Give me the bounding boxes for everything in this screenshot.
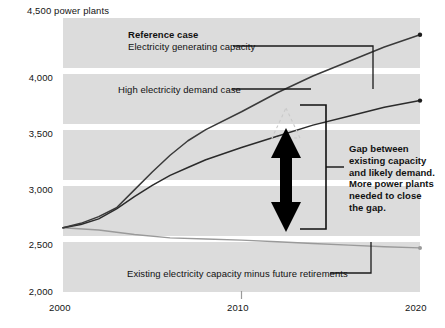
x-tick-label-2000: 2000 xyxy=(49,302,71,313)
gap-note-line-6: the gap. xyxy=(349,202,435,214)
annotation-gap-note: Gap between existing capacity and likely… xyxy=(349,143,435,214)
chart-container: 4,500 power plants 4,000 3,500 3,000 2,5… xyxy=(0,0,445,328)
annotation-high-demand-case: High electricity demand case xyxy=(118,84,241,96)
series-path-existing xyxy=(63,228,422,250)
gap-note-line-3: and likely demand. xyxy=(349,167,435,179)
gap-note-line-4: More power plants xyxy=(349,178,435,190)
gap-note-line-5: needed to close xyxy=(349,190,435,202)
y-tick-label-3500: 3,500 xyxy=(3,128,53,139)
y-axis-unit-label: 4,500 power plants xyxy=(27,5,109,16)
annotation-existing-capacity: Existing electricity capacity minus futu… xyxy=(127,268,348,280)
y-tick-label-4000: 4,000 xyxy=(3,72,53,83)
y-tick-label-2500: 2,500 xyxy=(3,239,53,250)
y-tick-label-3000: 3,000 xyxy=(3,184,53,195)
gap-note-line-1: Gap between xyxy=(349,143,435,155)
x-tick-label-2010: 2010 xyxy=(227,302,249,313)
gap-note-line-2: existing capacity xyxy=(349,155,435,167)
annotation-reference-case-subtitle: Electricity generating capacity xyxy=(128,41,255,53)
y-tick-label-2000: 2,000 xyxy=(3,286,53,297)
x-tick-label-2020: 2020 xyxy=(405,302,427,313)
annotation-reference-case-title: Reference case xyxy=(128,29,198,41)
